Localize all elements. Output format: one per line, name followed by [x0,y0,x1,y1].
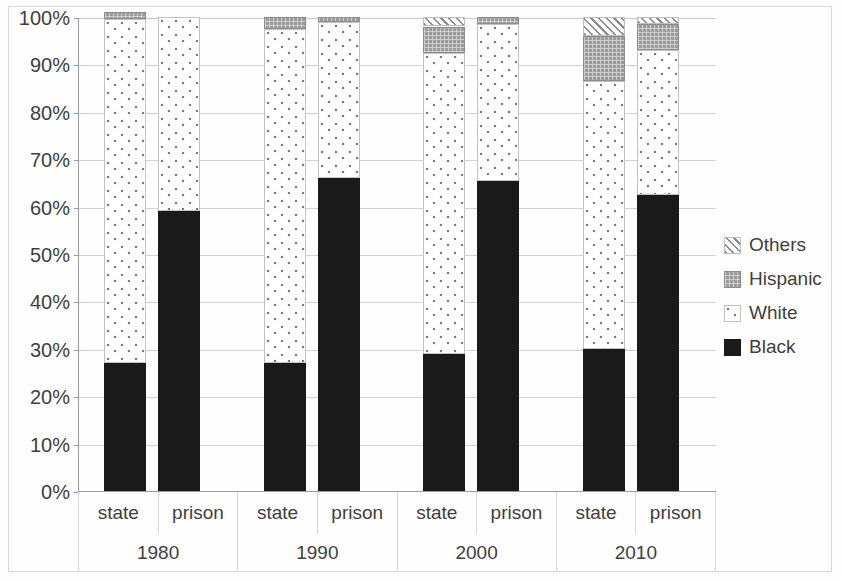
x-axis-subcategory-row: stateprisonstateprisonstateprisonstatepr… [78,492,715,534]
legend-item-black: Black [724,330,836,364]
bar-segment-black [104,363,146,491]
bar-segment-white [104,19,146,363]
legend-label: White [749,302,798,324]
plot-area [78,18,716,492]
y-axis-tick-label: 100% [8,8,70,28]
y-axis-tick-mark [74,113,79,114]
y-axis-tick-label: 60% [8,198,70,218]
legend-item-others: Others [724,228,836,262]
solid-black-swatch [724,339,741,356]
y-axis-tick-label: 50% [8,245,70,265]
y-axis: 100%90%80%70%60%50%40%30%20%10%0% [0,18,70,492]
x-axis-label-prison: prison [635,492,715,534]
y-axis-tick-label: 20% [8,387,70,407]
bar-segment-hispanic [318,17,360,22]
bar-segment-hispanic [264,17,306,29]
x-axis-label-prison: prison [476,492,556,534]
bar-segment-others [583,17,625,36]
light-dotted-swatch [724,305,741,322]
x-axis-group-label-2000: 2000 [397,534,556,572]
y-axis-tick-mark [74,350,79,351]
x-axis: stateprisonstateprisonstateprisonstatepr… [78,492,716,572]
bar-segment-hispanic [104,12,146,19]
bar-segment-others [423,17,465,26]
bar-segment-black [477,181,519,491]
bar-segment-white [423,53,465,354]
legend-item-white: White [724,296,836,330]
y-axis-tick-label: 90% [8,55,70,75]
bar-segment-black [264,363,306,491]
x-axis-label-state: state [237,492,317,534]
bar-segment-hispanic [423,27,465,53]
bar-segment-hispanic [477,17,519,24]
y-axis-tick-mark [74,397,79,398]
y-axis-tick-label: 70% [8,150,70,170]
y-axis-tick-label: 10% [8,435,70,455]
x-axis-year-row: 1980199020002010 [78,534,715,572]
legend-item-hispanic: Hispanic [724,262,836,296]
bar-segment-black [158,211,200,491]
y-axis-tick-label: 80% [8,103,70,123]
chart-legend: OthersHispanicWhiteBlack [724,228,836,364]
bar-segment-hispanic [583,36,625,81]
x-axis-label-prison: prison [317,492,397,534]
bar-segment-black [318,178,360,491]
bar-segment-hispanic [637,24,679,50]
x-axis-label-state: state [556,492,636,534]
y-axis-tick-mark [74,255,79,256]
hatch-diagonal-swatch [724,237,741,254]
bar-segment-others [637,17,679,24]
y-axis-tick-label: 40% [8,292,70,312]
x-axis-group-label-1980: 1980 [78,534,237,572]
bar-segment-white [477,24,519,180]
y-axis-tick-label: 30% [8,340,70,360]
y-axis-tick-mark [74,160,79,161]
y-axis-tick-mark [74,445,79,446]
bar-segment-white [158,17,200,211]
chart-root: 100%90%80%70%60%50%40%30%20%10%0% statep… [0,0,842,580]
x-axis-label-state: state [78,492,158,534]
bar-segment-black [637,195,679,491]
x-axis-group-label-2010: 2010 [556,534,715,572]
legend-label: Others [749,234,806,256]
x-axis-group-label-1990: 1990 [237,534,396,572]
legend-label: Black [749,336,795,358]
bar-segment-white [583,81,625,349]
y-axis-tick-label: 0% [8,482,70,502]
y-axis-tick-mark [74,302,79,303]
bar-segment-black [423,354,465,491]
bar-segment-black [583,349,625,491]
bar-segment-white [318,22,360,178]
legend-label: Hispanic [749,268,822,290]
x-axis-label-prison: prison [158,492,238,534]
bar-segment-white [637,50,679,195]
x-axis-label-state: state [397,492,477,534]
y-axis-tick-mark [74,208,79,209]
gray-checker-swatch [724,271,741,288]
bar-segment-white [264,29,306,363]
y-axis-tick-mark [74,18,79,19]
y-axis-tick-mark [74,65,79,66]
